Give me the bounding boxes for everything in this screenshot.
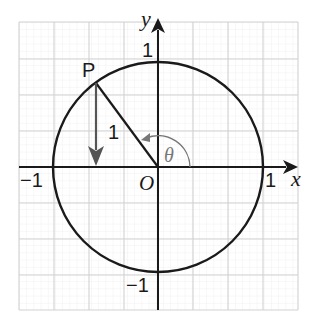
x-neg-tick-label: −1 (20, 169, 43, 191)
x-pos-tick-label: 1 (265, 169, 276, 191)
y-pos-tick-label: 1 (142, 39, 153, 61)
theta-label: θ (164, 144, 174, 166)
unit-circle-diagram: y x 1 −1 1 −1 O P 1 θ (0, 0, 312, 321)
y-neg-tick-label: −1 (126, 274, 149, 296)
x-axis-label: x (290, 166, 301, 191)
radius-label: 1 (108, 121, 119, 143)
origin-label: O (139, 171, 154, 195)
point-p-label: P (82, 59, 95, 81)
y-axis-label: y (139, 6, 151, 31)
